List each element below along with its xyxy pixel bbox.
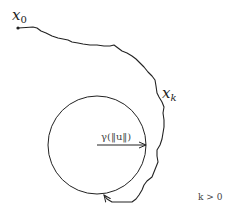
trajectory-path	[18, 27, 164, 202]
trajectory-diagram: x0 xk γ(‖u‖) k > 0	[0, 0, 241, 213]
radius-label: γ(‖u‖)	[101, 131, 131, 143]
condition-label: k > 0	[198, 192, 223, 202]
start-label: x0	[12, 6, 27, 25]
trajectory-label: xk	[162, 84, 177, 103]
